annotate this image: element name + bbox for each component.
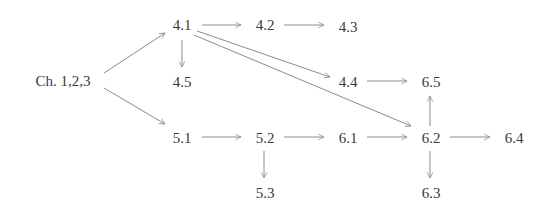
node-6-5: 6.5	[422, 74, 441, 90]
node-4-5: 4.5	[173, 74, 192, 90]
node-6-2: 6.2	[422, 130, 441, 146]
node-4-2: 4.2	[256, 17, 275, 33]
node-4-3: 4.3	[339, 19, 358, 35]
node-6-3: 6.3	[422, 185, 441, 201]
node-4-4: 4.4	[339, 74, 358, 90]
dependency-diagram: Ch. 1,2,34.14.24.34.54.46.55.15.26.16.26…	[0, 0, 544, 216]
node-4-1: 4.1	[173, 17, 192, 33]
arrow-ch123-to-4-1	[104, 33, 165, 73]
node-6-4: 6.4	[505, 130, 524, 146]
node-5-1: 5.1	[173, 130, 192, 146]
arrow-4-1-to-4-4	[197, 31, 330, 77]
node-5-3: 5.3	[256, 185, 275, 201]
node-ch123: Ch. 1,2,3	[35, 73, 90, 89]
arrow-ch123-to-5-1	[104, 88, 165, 124]
node-5-2: 5.2	[256, 130, 275, 146]
node-6-1: 6.1	[339, 130, 358, 146]
nodes-group: Ch. 1,2,34.14.24.34.54.46.55.15.26.16.26…	[35, 17, 523, 201]
edges-group	[104, 25, 490, 178]
